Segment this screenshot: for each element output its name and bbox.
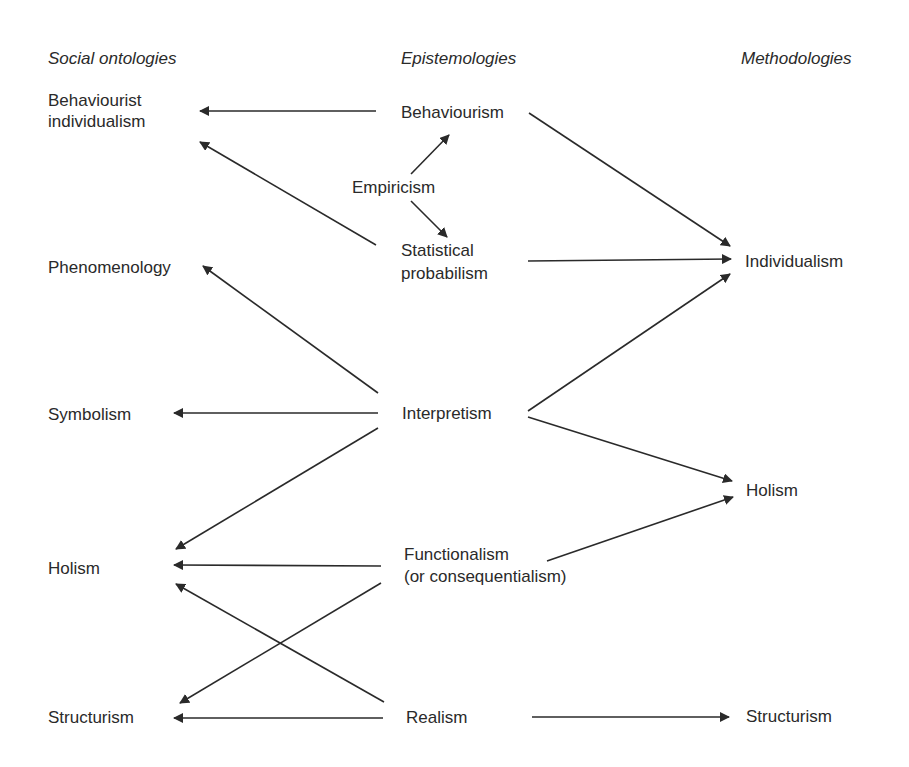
edge-interpretism-to-holism-methodology [528, 417, 732, 481]
edge-interpretism-to-individualism [528, 274, 730, 411]
edge-empiricism-to-behaviourism [411, 135, 449, 174]
node-structurism-ontology: Structurism [48, 708, 134, 727]
node-symbolism: Symbolism [48, 405, 131, 424]
edge-behaviourism-to-individualism [529, 113, 730, 246]
svg-text:Functionalism: Functionalism [404, 545, 509, 564]
edge-interpretism-to-holism [176, 428, 378, 549]
node-behaviourist-individualism: Behaviourist individualism [48, 91, 145, 131]
edge-functionalism-to-holism [174, 565, 381, 566]
edge-realism-to-holism [176, 584, 384, 702]
edge-functionalism-to-holism-methodology [547, 497, 733, 561]
svg-text:individualism: individualism [48, 112, 145, 131]
svg-text:probabilism: probabilism [401, 264, 488, 283]
edge-statistical-probabilism-to-behaviourist-individualism [200, 142, 376, 245]
svg-text:Statistical: Statistical [401, 241, 474, 260]
node-empiricism: Empiricism [352, 178, 435, 197]
header-epistemologies: Epistemologies [401, 49, 517, 68]
node-functionalism: Functionalism (or consequentialism) [404, 545, 567, 586]
node-individualism-methodology: Individualism [745, 252, 843, 271]
header-methodologies: Methodologies [741, 49, 852, 68]
node-interpretism: Interpretism [402, 404, 492, 423]
node-behaviourism: Behaviourism [401, 103, 504, 122]
svg-text:(or consequentialism): (or consequentialism) [404, 567, 567, 586]
edge-empiricism-to-statistical-probabilism [411, 201, 447, 237]
diagram-canvas: Social ontologies Epistemologies Methodo… [0, 0, 909, 767]
header-social-ontologies: Social ontologies [48, 49, 177, 68]
node-holism-ontology: Holism [48, 559, 100, 578]
edge-interpretism-to-phenomenology [203, 266, 378, 393]
node-holism-methodology: Holism [746, 481, 798, 500]
edge-statistical-probabilism-to-individualism [528, 259, 731, 261]
node-structurism-methodology: Structurism [746, 707, 832, 726]
node-statistical-probabilism: Statistical probabilism [401, 241, 488, 283]
svg-text:Behaviourist: Behaviourist [48, 91, 142, 110]
node-phenomenology: Phenomenology [48, 258, 171, 277]
node-realism: Realism [406, 708, 467, 727]
